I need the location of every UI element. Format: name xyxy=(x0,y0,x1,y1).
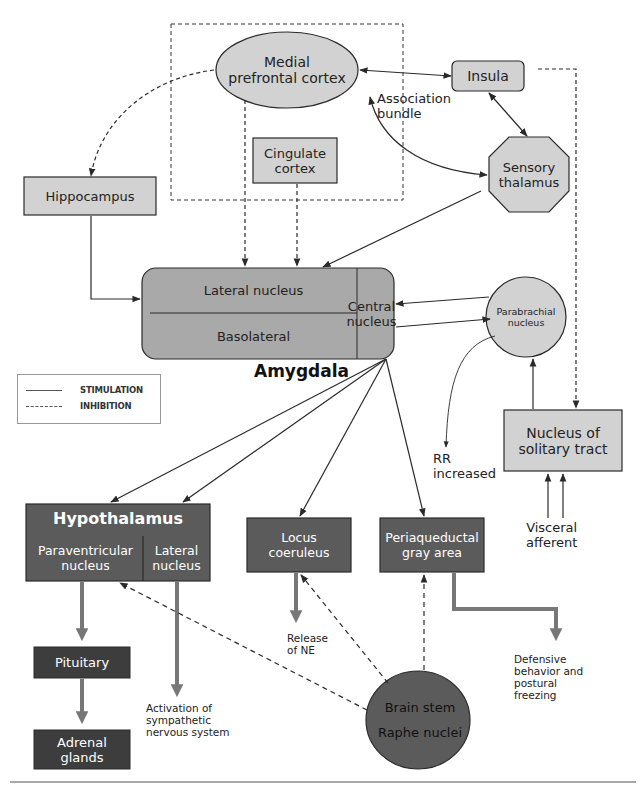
edge-insula-nts xyxy=(538,69,576,408)
edge-parabrachial-rr xyxy=(446,336,495,447)
rr-line1: RR xyxy=(433,452,496,467)
rr-increased-label: RR increased xyxy=(433,452,496,482)
edge-periaqueductal-defensive xyxy=(454,573,556,636)
release-ne-label: Release of NE xyxy=(287,632,328,656)
thalamus-line2: thalamus xyxy=(499,175,560,190)
activation-line2: sympathetic xyxy=(146,714,230,726)
amygdala-title: Amygdala xyxy=(254,362,349,382)
locus-line1: Locus xyxy=(281,530,317,545)
pag-line2: gray area xyxy=(402,545,462,560)
sensory-thalamus-label: Sensory thalamus xyxy=(489,137,569,212)
parabrachial-line2: nucleus xyxy=(508,317,545,328)
basolateral-text: Basolateral xyxy=(217,329,290,344)
pituitary-text: Pituitary xyxy=(55,655,109,670)
nts-label: Nucleus of solitary tract xyxy=(504,410,622,471)
adrenal-glands-label: Adrenal glands xyxy=(34,730,130,769)
nts-line1: Nucleus of xyxy=(526,425,600,441)
mpfc-line2: prefrontal cortex xyxy=(228,70,345,86)
central-line1: Central xyxy=(348,299,395,314)
defensive-line1: Defensive xyxy=(514,653,583,665)
defensive-line4: freezing xyxy=(514,689,583,701)
legend-dashed-line xyxy=(26,406,62,407)
activation-line3: nervous system xyxy=(146,726,230,738)
legend-solid-line xyxy=(26,390,62,391)
edge-central-locus-coeruleus xyxy=(300,359,386,516)
thalamus-line1: Sensory xyxy=(503,160,555,175)
adrenal-line2: glands xyxy=(60,750,103,765)
periaqueductal-gray-label: Periaqueductal gray area xyxy=(380,518,484,572)
parabrachial-nucleus-label: Parabrachial nucleus xyxy=(486,297,566,337)
association-bundle-label: Association bundle xyxy=(377,92,451,122)
edge-brainstem-paraventricular xyxy=(120,583,367,710)
lateral-hyp-line2: nucleus xyxy=(152,558,200,573)
edge-hippocampus-amygdala xyxy=(91,216,140,299)
lateral-nucleus-label: Lateral nucleus xyxy=(150,268,357,313)
brain-stem-line2: Raphe nuclei xyxy=(378,725,462,740)
cingulate-cortex-label: Cingulate cortex xyxy=(253,138,337,183)
visceral-line2: afferent xyxy=(526,536,577,551)
activation-line1: Activation of xyxy=(146,702,230,714)
edge-parabrachial-central xyxy=(396,297,489,304)
visceral-afferent-label: Visceral afferent xyxy=(526,521,577,551)
legend-inhibition-text: INHIBITION xyxy=(80,401,132,411)
association-line2: bundle xyxy=(377,107,451,122)
paraventricular-line1: Paraventricular xyxy=(38,543,133,558)
edge-thalamus-amygdala xyxy=(323,191,481,267)
central-line2: nucleus xyxy=(346,314,396,329)
edge-mpfc-insula xyxy=(360,70,451,76)
legend: STIMULATION INHIBITION xyxy=(17,374,161,424)
rr-line2: increased xyxy=(433,467,496,482)
insula-label: Insula xyxy=(452,61,524,91)
hippocampus-text: Hippocampus xyxy=(46,189,135,204)
legend-stimulation-text: STIMULATION xyxy=(80,385,143,395)
parabrachial-line1: Parabrachial xyxy=(497,306,556,317)
edge-insula-sensory-thalamus xyxy=(489,93,527,136)
edge-mpfc-hippocampus xyxy=(91,70,214,176)
legend-stimulation: STIMULATION xyxy=(26,385,143,395)
pag-line1: Periaqueductal xyxy=(385,530,478,545)
edge-central-periaqueductal xyxy=(386,359,424,516)
hypothalamus-title-text: Hypothalamus xyxy=(53,509,183,528)
defensive-line2: behavior and xyxy=(514,665,583,677)
hypothalamus-title: Hypothalamus xyxy=(26,510,210,528)
edge-brainstem-locus xyxy=(301,575,388,683)
basolateral-label: Basolateral xyxy=(150,313,357,359)
hippocampus-label: Hippocampus xyxy=(24,177,156,215)
mpfc-line1: Medial xyxy=(264,54,310,70)
activation-sympathetic-label: Activation of sympathetic nervous system xyxy=(146,702,230,738)
central-nucleus-label: Central nucleus xyxy=(353,268,390,359)
defensive-line3: postural xyxy=(514,677,583,689)
cingulate-line1: Cingulate xyxy=(264,146,326,161)
paraventricular-label: Paraventricular nucleus xyxy=(28,537,143,579)
brain-stem-label: Brain stem Raphe nuclei xyxy=(372,682,468,758)
nts-line2: solitary tract xyxy=(518,441,607,457)
paraventricular-line2: nucleus xyxy=(61,558,109,573)
insula-text: Insula xyxy=(467,68,509,84)
locus-line2: coeruleus xyxy=(269,545,330,560)
lateral-nucleus-text: Lateral nucleus xyxy=(204,283,304,298)
locus-coeruleus-label: Locus coeruleus xyxy=(247,518,351,572)
release-line1: Release xyxy=(287,632,328,644)
brain-stem-line1: Brain stem xyxy=(385,700,456,715)
release-line2: of NE xyxy=(287,644,328,656)
medial-prefrontal-cortex-label: Medial prefrontal cortex xyxy=(216,48,358,92)
legend-inhibition: INHIBITION xyxy=(26,401,132,411)
edge-central-parabrachial xyxy=(396,319,490,327)
pituitary-label: Pituitary xyxy=(34,647,130,678)
defensive-behavior-label: Defensive behavior and postural freezing xyxy=(514,653,583,701)
adrenal-line1: Adrenal xyxy=(57,735,107,750)
cingulate-line2: cortex xyxy=(274,161,315,176)
association-line1: Association xyxy=(377,92,451,107)
amygdala-title-text: Amygdala xyxy=(254,361,349,381)
lateral-hypothalamus-label: Lateral nucleus xyxy=(143,537,210,579)
lateral-hyp-line1: Lateral xyxy=(155,543,199,558)
visceral-line1: Visceral xyxy=(526,521,577,536)
